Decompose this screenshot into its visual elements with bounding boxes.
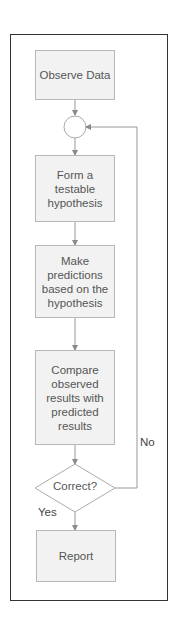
node-label: Compare observed results with predicted … [38, 363, 112, 433]
edge-label-no: No [140, 436, 155, 448]
node-report: Report [36, 530, 116, 582]
edge-label-yes: Yes [38, 506, 57, 518]
node-label: Make predictions based on the hypothesis [38, 254, 112, 310]
node-make-predictions: Make predictions based on the hypothesis [35, 245, 115, 318]
node-compare-results: Compare observed results with predicted … [35, 350, 115, 445]
node-observe-data: Observe Data [35, 50, 115, 100]
node-label: Observe Data [40, 68, 111, 82]
node-label: Report [59, 549, 94, 563]
node-form-hypothesis: Form a testable hypothesis [35, 155, 115, 222]
junction-circle [64, 116, 86, 138]
node-label: Form a testable hypothesis [38, 168, 112, 210]
decision-label: Correct? [35, 480, 115, 492]
